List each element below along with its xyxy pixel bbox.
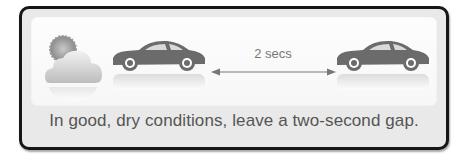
car-icon [109,34,209,94]
diagram-frame: 2 secs In good, dry conditions, leave a … [19,6,449,150]
car-icon [333,34,433,94]
caption: In good, dry conditions, leave a two-sec… [22,111,446,131]
illustration-panel: 2 secs [31,17,437,106]
double-arrow-icon [211,67,336,77]
gap-time-label: 2 secs [233,46,313,61]
weather-sun-cloud-icon [43,31,105,103]
